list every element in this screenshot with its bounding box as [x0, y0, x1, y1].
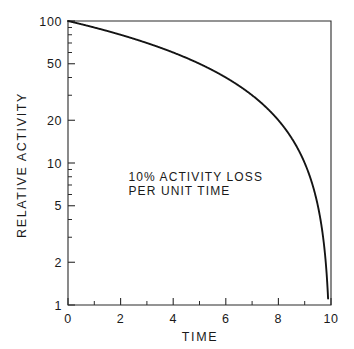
x-tick-label: 6: [222, 312, 230, 326]
x-tick-label: 0: [64, 312, 72, 326]
y-tick-label: 20: [47, 114, 62, 128]
x-tick-label: 10: [323, 312, 338, 326]
y-axis-tick-labels: 125102050100: [39, 15, 62, 313]
x-tick-label: 4: [169, 312, 177, 326]
y-tick-label: 50: [47, 57, 62, 71]
y-tick-label: 1: [54, 299, 62, 313]
y-axis-ticks: [68, 21, 75, 305]
annotation-line-1: 10% ACTIVITY LOSS: [128, 170, 263, 184]
chart-figure: 125102050100 0246810 RELATIVE ACTIVITY T…: [0, 0, 354, 349]
plot-annotation: 10% ACTIVITY LOSS PER UNIT TIME: [128, 170, 263, 198]
data-series-group: [68, 21, 328, 299]
annotation-line-2: PER UNIT TIME: [128, 184, 230, 198]
x-tick-label: 8: [275, 312, 283, 326]
y-tick-label: 5: [54, 199, 62, 213]
y-tick-label: 2: [54, 256, 62, 270]
x-axis-tick-labels: 0246810: [64, 312, 338, 326]
y-tick-label: 10: [47, 157, 62, 171]
semi-log-decay-chart: 125102050100 0246810 RELATIVE ACTIVITY T…: [0, 0, 354, 349]
x-axis-ticks: [68, 298, 331, 305]
y-tick-label: 100: [39, 15, 62, 29]
y-axis-title: RELATIVE ACTIVITY: [15, 92, 29, 238]
decay-curve: [68, 21, 328, 299]
x-tick-label: 2: [117, 312, 125, 326]
x-axis-title: TIME: [182, 330, 218, 344]
